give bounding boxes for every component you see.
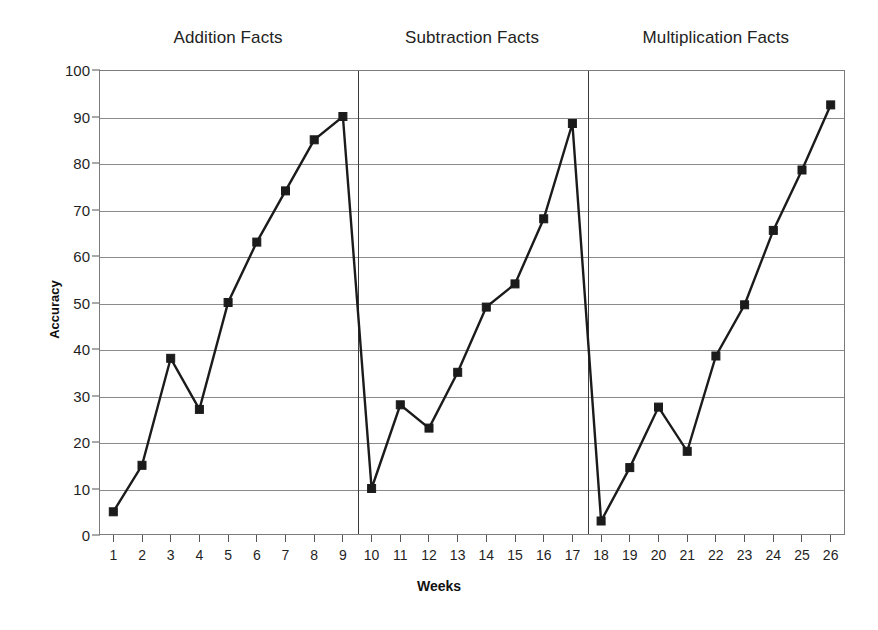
x-tick-mark-week-12: [428, 535, 429, 542]
x-tick-mark-week-5: [228, 535, 229, 542]
x-tick-mark-week-6: [256, 535, 257, 542]
x-tick-mark-week-3: [170, 535, 171, 542]
x-tick-label-week-26: 26: [811, 547, 851, 563]
x-tick-mark-week-26: [830, 535, 831, 542]
y-tick-label-70: 70: [44, 201, 90, 218]
x-tick-mark-week-22: [715, 535, 716, 542]
x-tick-mark-week-10: [371, 535, 372, 542]
phase-separator-1: [358, 71, 359, 534]
x-tick-mark-week-9: [342, 535, 343, 542]
y-tick-label-100: 100: [44, 62, 90, 79]
y-axis-title: Accuracy: [47, 250, 62, 370]
x-tick-mark-week-11: [400, 535, 401, 542]
x-tick-mark-week-2: [142, 535, 143, 542]
x-tick-mark-week-21: [687, 535, 688, 542]
gridline-20: [100, 443, 844, 444]
x-tick-mark-week-4: [199, 535, 200, 542]
gridline-50: [100, 304, 844, 305]
gridline-40: [100, 350, 844, 351]
x-tick-mark-week-7: [285, 535, 286, 542]
x-tick-mark-week-18: [601, 535, 602, 542]
x-tick-mark-week-19: [629, 535, 630, 542]
y-tick-label-30: 30: [44, 387, 90, 404]
plot-area: [99, 70, 845, 535]
y-tick-label-80: 80: [44, 155, 90, 172]
y-tick-label-90: 90: [44, 108, 90, 125]
phase-label-subtraction-facts: Subtraction Facts: [405, 28, 539, 48]
x-tick-mark-week-15: [515, 535, 516, 542]
x-tick-mark-week-23: [744, 535, 745, 542]
x-tick-mark-week-13: [457, 535, 458, 542]
x-tick-mark-week-24: [773, 535, 774, 542]
x-tick-mark-week-25: [801, 535, 802, 542]
x-axis-title: Weeks: [0, 578, 878, 594]
gridline-80: [100, 164, 844, 165]
phase-label-addition-facts: Addition Facts: [174, 28, 283, 48]
y-tick-label-10: 10: [44, 480, 90, 497]
x-tick-mark-week-8: [314, 535, 315, 542]
x-tick-mark-week-1: [113, 535, 114, 542]
y-tick-label-20: 20: [44, 434, 90, 451]
gridline-30: [100, 397, 844, 398]
phase-separator-2: [588, 71, 589, 534]
phase-label-multiplication-facts: Multiplication Facts: [643, 28, 790, 48]
chart-figure: Addition FactsSubtraction FactsMultiplic…: [0, 0, 878, 630]
gridline-70: [100, 211, 844, 212]
x-tick-mark-week-17: [572, 535, 573, 542]
x-tick-mark-week-16: [543, 535, 544, 542]
y-tick-label-0: 0: [44, 527, 90, 544]
x-tick-mark-week-20: [658, 535, 659, 542]
gridline-10: [100, 490, 844, 491]
gridline-90: [100, 118, 844, 119]
gridline-60: [100, 257, 844, 258]
x-tick-mark-week-14: [486, 535, 487, 542]
